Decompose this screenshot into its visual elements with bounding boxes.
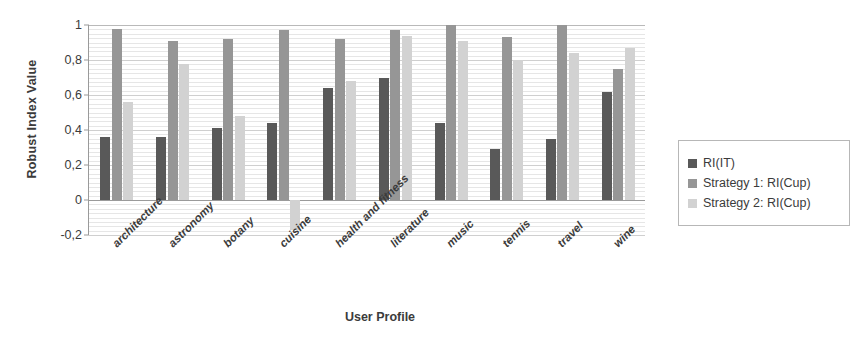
legend-item[interactable]: Strategy 2: RI(Cup) <box>688 196 841 210</box>
bar-group <box>312 25 368 235</box>
bar-series-container <box>89 25 645 235</box>
bar <box>490 149 500 200</box>
bar <box>613 69 623 200</box>
legend-label: Strategy 2: RI(Cup) <box>703 196 811 210</box>
legend-item[interactable]: Strategy 1: RI(Cup) <box>688 176 841 190</box>
legend-label: RI(IT) <box>703 156 735 170</box>
bar <box>625 48 635 200</box>
bar <box>602 92 612 201</box>
legend-swatch-icon <box>688 179 697 188</box>
bar <box>212 128 222 200</box>
bar <box>458 41 468 200</box>
bar <box>168 41 178 200</box>
x-axis-title: User Profile <box>250 310 510 324</box>
bar <box>446 25 456 200</box>
bar <box>235 116 245 200</box>
y-axis-title: Robust Index Value <box>25 19 39 219</box>
bar <box>223 39 233 200</box>
chart-legend: RI(IT)Strategy 1: RI(Cup)Strategy 2: RI(… <box>678 140 850 226</box>
bar-group <box>590 25 646 235</box>
bar <box>346 81 356 200</box>
y-tick-label: 0,4 <box>65 123 82 137</box>
y-tick-label: 0,2 <box>65 158 82 172</box>
bar <box>112 29 122 201</box>
bar <box>557 25 567 200</box>
bar-group <box>89 25 145 235</box>
y-tick-label: 0,6 <box>65 88 82 102</box>
bar <box>267 123 277 200</box>
bar <box>179 64 189 201</box>
bar <box>323 88 333 200</box>
bar <box>546 139 556 200</box>
bar <box>379 78 389 201</box>
bar <box>279 30 289 200</box>
legend-swatch-icon <box>688 159 697 168</box>
y-tick-label: 0 <box>75 193 82 207</box>
bar-chart: Robust Index Value 10,80,60,40,20-0,2 ar… <box>0 0 859 345</box>
legend-swatch-icon <box>688 199 697 208</box>
bar-group <box>256 25 312 235</box>
y-tick-label: 0,8 <box>65 53 82 67</box>
bar-group <box>479 25 535 235</box>
bar <box>156 137 166 200</box>
bar <box>435 123 445 200</box>
bar-group <box>423 25 479 235</box>
y-tick-label: 1 <box>75 18 82 32</box>
bar <box>513 60 523 200</box>
bar <box>502 37 512 200</box>
legend-item[interactable]: RI(IT) <box>688 156 841 170</box>
bar <box>569 53 579 200</box>
y-tick-label: -0,2 <box>60 228 82 242</box>
bar <box>123 102 133 200</box>
bar <box>335 39 345 200</box>
legend-label: Strategy 1: RI(Cup) <box>703 176 811 190</box>
bar-group <box>535 25 591 235</box>
bar <box>100 137 110 200</box>
plot-area: 10,80,60,40,20-0,2 <box>88 25 645 235</box>
